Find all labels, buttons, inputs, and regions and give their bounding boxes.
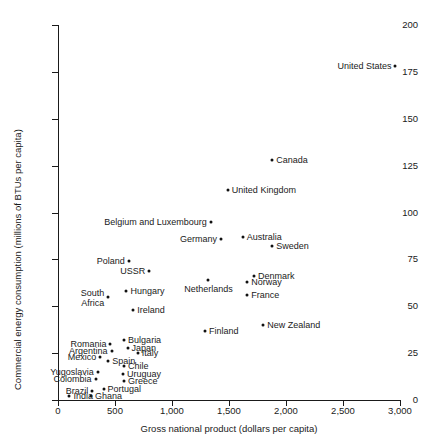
x-tick-label: 1,000 [160,406,184,416]
data-point-label: India [73,392,93,401]
data-point-label: SouthAfrica [104,288,128,308]
x-tick-label: 1,500 [217,406,241,416]
y-tick [52,119,58,120]
data-point [204,329,207,332]
data-point-label: Italy [142,349,159,358]
data-point-label: Netherlands [184,285,233,294]
data-point-label: France [251,291,279,300]
data-point [136,352,139,355]
data-point-label: Canada [276,156,308,165]
x-axis-title: Gross national product (dollars per capi… [58,423,400,434]
y-tick [52,166,58,167]
data-point [271,159,274,162]
x-tick-label: 3,000 [388,406,412,416]
data-point [246,280,249,283]
y-tick-label: 50 [370,301,418,311]
data-point [246,294,249,297]
data-point-label: United States [391,62,423,71]
y-tick [52,25,58,26]
data-point-label: Sweden [276,242,309,251]
y-tick-label: 100 [370,208,418,218]
x-tick-label: 2,500 [331,406,355,416]
data-point-label: Ireland [137,306,165,315]
data-point [132,309,135,312]
y-tick [52,213,58,214]
data-point [271,245,274,248]
x-tick-label: 500 [107,406,123,416]
x-tick-label: 0 [55,406,60,416]
data-point [68,395,71,398]
y-tick [52,353,58,354]
y-tick [52,306,58,307]
data-point [207,279,210,282]
data-point [226,189,229,192]
y-tick-label: 0 [370,395,418,405]
data-point [107,359,110,362]
data-point [241,235,244,238]
y-axis-title: Commercial energy consumption (millions … [12,129,23,390]
data-point-label: Belgium and Luxembourg [207,217,310,226]
y-tick-label: 75 [370,254,418,264]
y-tick-label: 150 [370,114,418,124]
data-point-label: Ghana [95,392,122,401]
y-tick-label: 25 [370,348,418,358]
y-tick-label: 200 [370,20,418,30]
data-point-label: USSR [145,266,170,275]
y-tick [52,72,58,73]
data-point-label: United Kingdom [232,186,296,195]
data-point-label: New Zealand [267,321,320,330]
y-axis-line [58,25,59,400]
data-point-label: Hungary [130,287,164,296]
data-point-label: Norway [251,277,282,286]
y-tick [52,259,58,260]
data-point-label: Finland [209,326,239,335]
data-point [262,324,265,327]
x-tick-label: 2,000 [274,406,298,416]
y-tick-label: 125 [370,161,418,171]
